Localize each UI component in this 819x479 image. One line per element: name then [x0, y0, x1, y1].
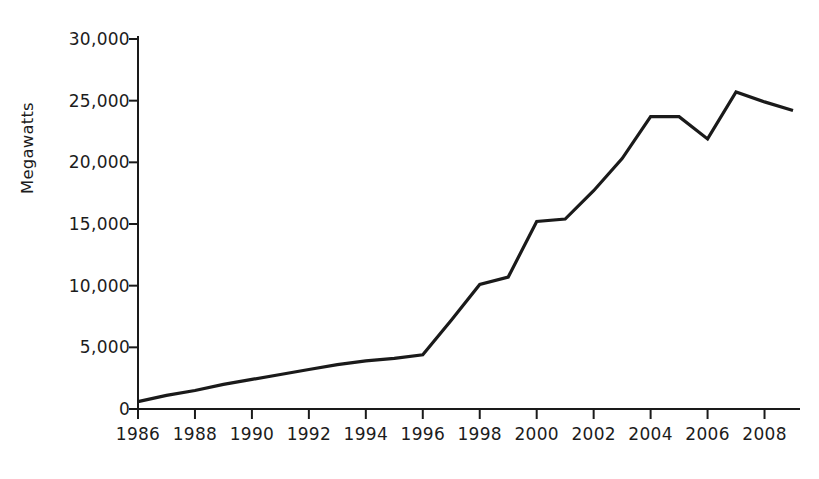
x-axis-ticks: [138, 409, 765, 419]
y-axis-ticks: [129, 39, 138, 409]
data-series-line: [138, 92, 793, 402]
plot-area: [0, 0, 819, 479]
line-chart: Megawatts 05,00010,00015,00020,00025,000…: [0, 0, 819, 479]
axes: [129, 36, 800, 419]
